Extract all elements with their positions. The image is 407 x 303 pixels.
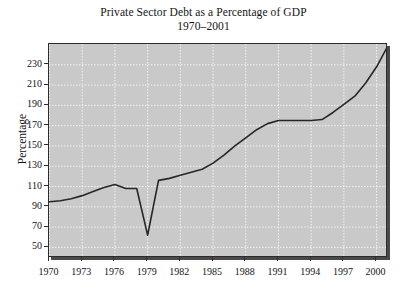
y-tick-mark: [44, 165, 48, 166]
y-tick-mark: [44, 205, 48, 206]
x-tick-mark: [113, 257, 114, 261]
x-tick-mark: [244, 257, 245, 261]
x-tick-mark: [277, 257, 278, 261]
y-tick-mark: [44, 124, 48, 125]
x-tick-mark: [146, 257, 147, 261]
x-tick-mark: [81, 257, 82, 261]
x-tick-mark: [375, 257, 376, 261]
y-tick-mark: [44, 185, 48, 186]
x-tick-mark: [179, 257, 180, 261]
y-tick-mark: [44, 84, 48, 85]
y-tick-mark: [44, 226, 48, 227]
x-tick-mark: [212, 257, 213, 261]
x-tick-mark: [310, 257, 311, 261]
x-tick-mark: [48, 257, 49, 261]
x-tick-mark: [342, 257, 343, 261]
y-tick-mark: [44, 144, 48, 145]
chart-figure: Private Sector Debt as a Percentage of G…: [0, 0, 407, 303]
x-axis-tick-labels: 1970197319761979198219851988199119941997…: [0, 0, 407, 303]
y-tick-mark: [44, 246, 48, 247]
y-tick-mark: [44, 63, 48, 64]
y-tick-mark: [44, 104, 48, 105]
x-tick-label: 2000: [356, 267, 396, 277]
